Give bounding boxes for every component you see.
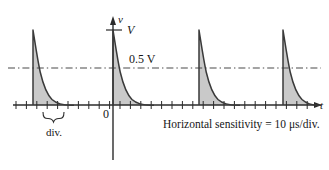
waveform-plot — [0, 0, 329, 170]
t-axis-group — [13, 101, 322, 109]
v-axis-arrowhead — [110, 16, 116, 25]
t-axis-label: t — [320, 100, 323, 111]
v-axis-label: v — [118, 14, 123, 25]
origin-label: 0 — [103, 108, 109, 120]
oscilloscope-waveform-figure: v V 0.5 V 0 t div. Horizontal sensitivit… — [0, 0, 329, 170]
division-brace — [43, 112, 64, 122]
horizontal-sensitivity-label: Horizontal sensitivity = 10 μs/div. — [163, 119, 320, 131]
division-label: div. — [46, 127, 62, 138]
half-voltage-label: 0.5 V — [129, 53, 155, 65]
peak-voltage-label: V — [127, 24, 134, 36]
